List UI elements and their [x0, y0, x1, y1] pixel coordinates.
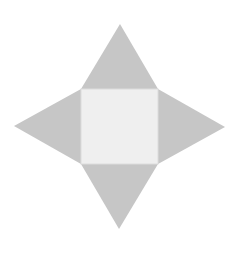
square-base	[81, 89, 158, 164]
pyramid-net-diagram	[0, 0, 246, 254]
